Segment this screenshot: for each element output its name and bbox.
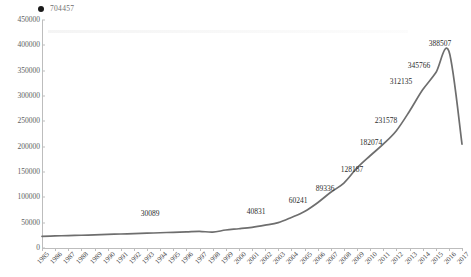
data-point-label: 30089: [141, 210, 160, 218]
data-point-label: 182074: [360, 139, 383, 147]
y-axis-tick-mark: [42, 248, 45, 249]
data-point-label: 312135: [390, 78, 413, 86]
series-svg: [0, 0, 471, 277]
y-axis-tick-mark: [42, 146, 45, 147]
line-chart: 704457 450000400000350000300000250000200…: [0, 0, 471, 277]
data-point-label: 89336: [316, 185, 335, 193]
y-axis-tick-mark: [42, 172, 45, 173]
y-axis-tick-mark: [42, 45, 45, 46]
y-axis-tick-mark: [42, 222, 45, 223]
data-point-label: 40831: [247, 208, 266, 216]
data-point-label: 231578: [375, 117, 398, 125]
data-point-label: 60241: [289, 197, 308, 205]
data-point-label: 128187: [341, 166, 364, 174]
y-axis-tick-mark: [42, 197, 45, 198]
y-axis-tick-mark: [42, 20, 45, 21]
y-axis-tick-mark: [42, 96, 45, 97]
y-axis-tick-mark: [42, 121, 45, 122]
data-point-label: 345766: [408, 62, 431, 70]
y-axis-tick-mark: [42, 70, 45, 71]
data-point-label: 388507: [429, 40, 452, 48]
